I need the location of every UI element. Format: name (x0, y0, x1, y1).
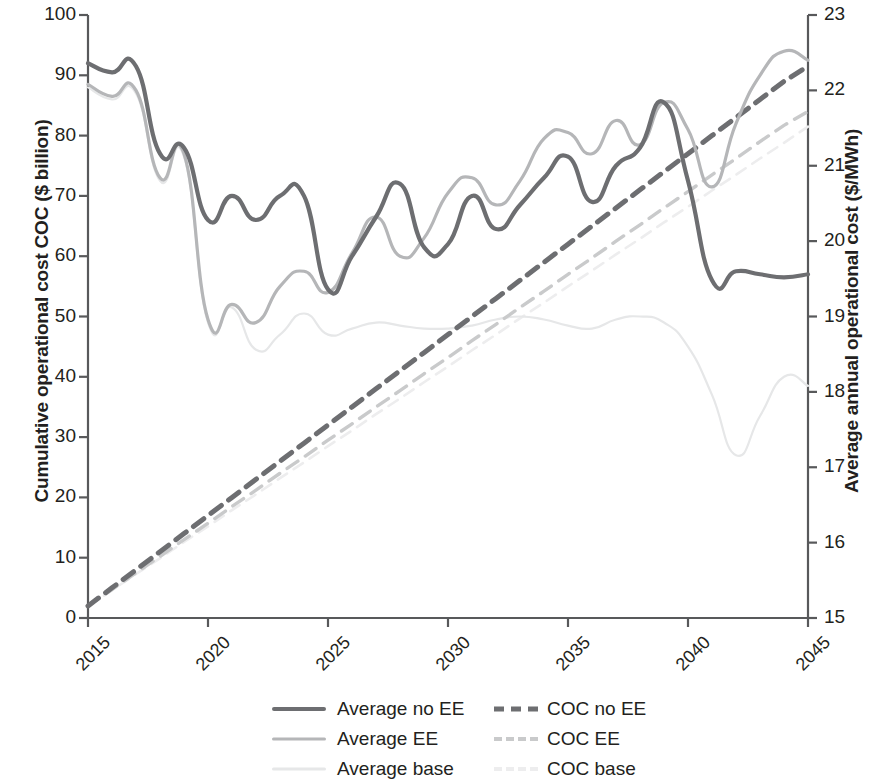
chart-legend: Average no EE COC no EE Average EE COC E… (272, 694, 692, 784)
legend-entry-average-base[interactable]: Average base (272, 754, 454, 784)
legend-swatch-coc-base (494, 761, 538, 777)
series-average-base (88, 86, 808, 456)
legend-entry-average-no-ee[interactable]: Average no EE (272, 694, 464, 724)
legend-label: Average no EE (337, 698, 464, 720)
legend-swatch-coc-ee (494, 731, 538, 747)
legend-swatch-average-base (272, 761, 326, 777)
legend-row: Average no EE COC no EE (272, 694, 692, 724)
legend-entry-coc-ee[interactable]: COC EE (494, 724, 620, 754)
series-average-no-ee (88, 59, 808, 294)
chart-figure: Cumulative operational cost COC ($ billi… (0, 0, 877, 784)
legend-label: COC no EE (547, 698, 646, 720)
legend-label: COC base (547, 758, 636, 780)
legend-entry-coc-no-ee[interactable]: COC no EE (494, 694, 646, 724)
legend-row: Average base COC base (272, 754, 692, 784)
legend-label: Average EE (337, 728, 438, 750)
legend-label: COC EE (547, 728, 620, 750)
legend-entry-average-ee[interactable]: Average EE (272, 724, 438, 754)
legend-row: Average EE COC EE (272, 724, 692, 754)
legend-swatch-average-no-ee (272, 701, 326, 717)
plot-canvas (0, 0, 877, 784)
legend-entry-coc-base[interactable]: COC base (494, 754, 636, 784)
legend-label: Average base (337, 758, 454, 780)
legend-swatch-coc-no-ee (494, 701, 538, 717)
legend-swatch-average-ee (272, 731, 326, 747)
series-coc-no-ee (88, 66, 808, 606)
